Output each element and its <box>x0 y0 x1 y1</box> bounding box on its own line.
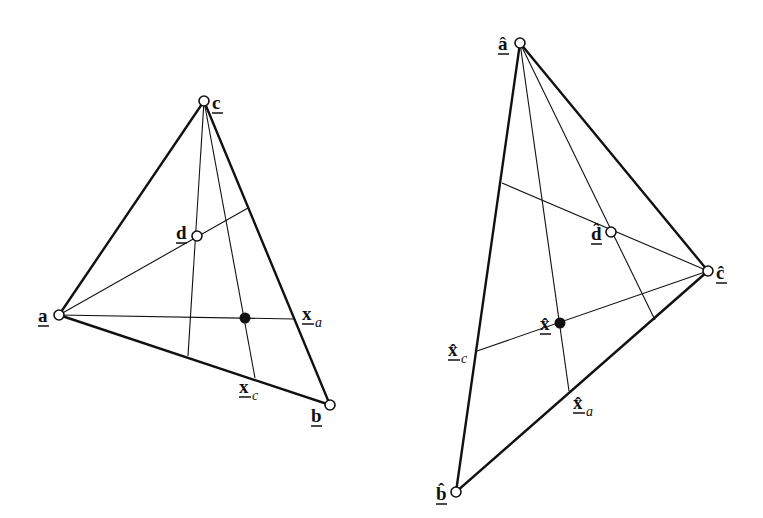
point-d-hat <box>606 227 616 237</box>
point-x-hat <box>555 318 566 329</box>
vertex-c <box>199 96 209 106</box>
ray-chat-xhatc <box>477 271 708 351</box>
projective-triangles-diagram: c a b d x a x c â ĉ b̂ d̂ x̂ x̂ <box>0 0 763 518</box>
label-c-hat: ĉ <box>716 262 724 283</box>
label-xhat-a: x̂ <box>573 392 583 413</box>
vertex-b-hat <box>451 487 461 497</box>
label-xhat-c: x̂ <box>448 339 458 360</box>
label-d: d <box>176 222 187 243</box>
label-xa: x <box>302 303 312 324</box>
label-xa-sub: a <box>315 315 322 330</box>
right-triangle: â ĉ b̂ d̂ x̂ x̂ c x̂ a <box>436 33 727 504</box>
label-a: a <box>38 305 48 326</box>
label-b-hat: b̂ <box>436 483 447 504</box>
point-d <box>192 231 202 241</box>
label-a-hat: â <box>498 33 508 54</box>
label-xhat-a-sub: a <box>586 404 593 419</box>
vertex-a-hat <box>515 38 525 48</box>
triangle-abc-hat <box>456 43 708 492</box>
vertex-b <box>325 400 335 410</box>
ray-a-d <box>59 208 248 315</box>
ray-chat-dhat <box>502 183 708 271</box>
ray-c-xc <box>204 101 255 378</box>
label-d-hat: d̂ <box>591 223 602 244</box>
left-triangle: c a b d x a x c <box>38 92 335 426</box>
label-b: b <box>311 405 322 426</box>
vertex-a <box>54 310 64 320</box>
label-c: c <box>212 92 220 113</box>
vertex-c-hat <box>703 266 713 276</box>
point-x <box>240 313 251 324</box>
label-x-hat: x̂ <box>540 313 550 334</box>
label-xhat-c-sub: c <box>461 351 468 366</box>
label-xc: x <box>239 376 249 397</box>
label-xc-sub: c <box>252 388 259 403</box>
ray-a-xa <box>59 315 294 319</box>
